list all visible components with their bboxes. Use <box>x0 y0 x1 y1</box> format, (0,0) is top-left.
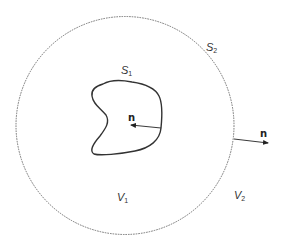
label-v1-sub: 1 <box>124 197 128 204</box>
label-s1-sub: 1 <box>128 70 132 77</box>
inner-surface-s1 <box>92 81 162 155</box>
label-outer-normal: n <box>260 129 267 139</box>
diagram-canvas <box>0 0 281 248</box>
outer-normal-arrow <box>234 139 268 143</box>
inner-normal-arrow <box>131 125 161 128</box>
label-inner-normal: n <box>128 113 135 123</box>
label-v1: V1 <box>117 192 128 204</box>
label-s2: S2 <box>206 42 217 54</box>
label-v2: V2 <box>234 190 245 202</box>
label-s2-sub: 2 <box>213 47 217 54</box>
label-s1: S1 <box>121 65 132 77</box>
label-v2-sub: 2 <box>241 195 245 202</box>
